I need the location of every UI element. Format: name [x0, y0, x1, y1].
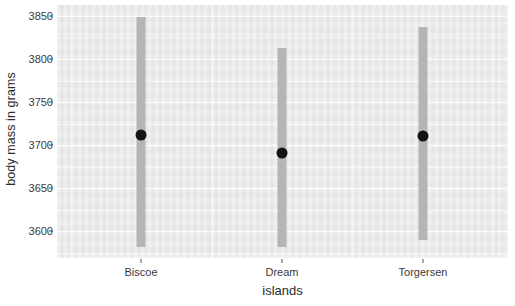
- y-tick-label: 3700: [9, 139, 53, 151]
- data-point-torgersen: [418, 131, 429, 142]
- y-tick-mark: [49, 16, 53, 17]
- y-tick-mark: [49, 188, 53, 189]
- grid-vertical-line: [212, 5, 213, 258]
- grid-vertical-line: [71, 5, 72, 258]
- grid-minor-line: [57, 253, 508, 254]
- y-tick-label: 3850: [9, 10, 53, 22]
- grid-vertical-line: [353, 5, 354, 258]
- x-axis-title: islands: [57, 283, 508, 298]
- y-tick-mark: [49, 59, 53, 60]
- chart-container: body mass in grams islands 3600 3650 370…: [0, 0, 515, 306]
- x-tick-label-torgersen: Torgersen: [399, 266, 448, 278]
- grid-vertical-line: [494, 5, 495, 258]
- y-tick-label: 3800: [9, 53, 53, 65]
- grid-minor-line: [57, 38, 508, 39]
- x-tick-mark-dream: [282, 259, 283, 263]
- y-tick-mark: [49, 145, 53, 146]
- grid-major-line-3850: [57, 16, 508, 17]
- plot-panel: [57, 5, 508, 258]
- y-axis-title: body mass in grams: [2, 0, 20, 258]
- y-tick-label: 3750: [9, 96, 53, 108]
- y-tick-mark: [49, 102, 53, 103]
- data-point-biscoe: [136, 130, 147, 141]
- y-tick-label: 3600: [9, 225, 53, 237]
- data-point-dream: [277, 148, 288, 159]
- x-tick-mark-torgersen: [423, 259, 424, 263]
- x-tick-label-dream: Dream: [265, 266, 298, 278]
- y-tick-mark: [49, 231, 53, 232]
- x-tick-mark-biscoe: [141, 259, 142, 263]
- y-tick-label: 3650: [9, 182, 53, 194]
- x-tick-label-biscoe: Biscoe: [124, 266, 157, 278]
